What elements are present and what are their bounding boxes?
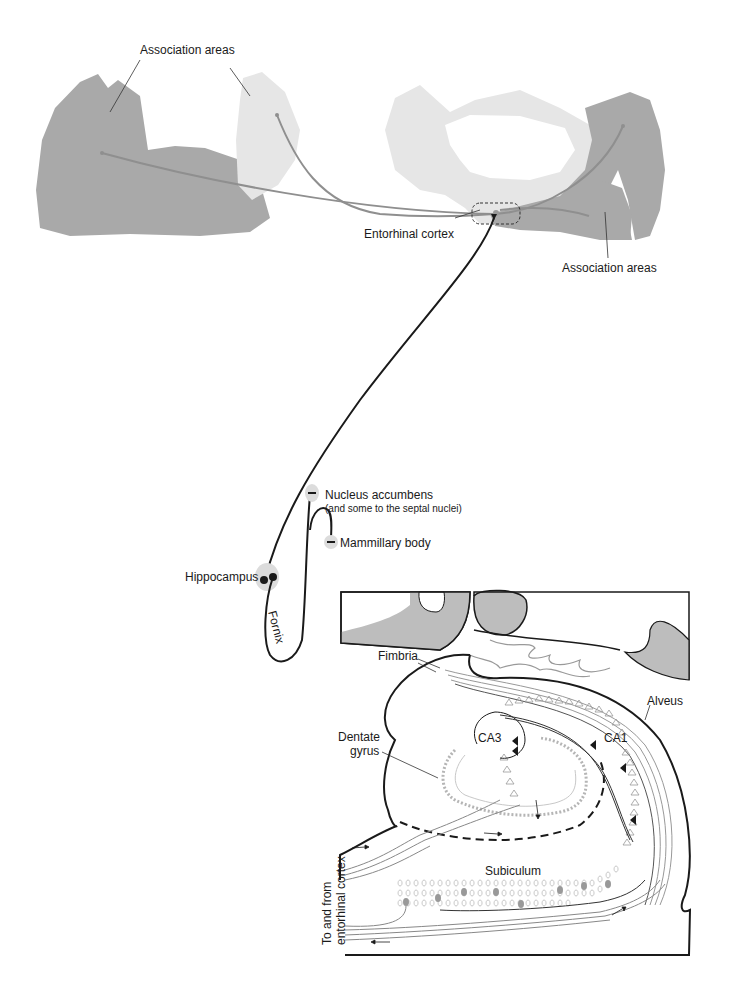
label-dentate-gyrus-line1: Dentate (338, 730, 380, 744)
label-association-areas-bottom: Association areas (562, 261, 657, 275)
label-subiculum: Subiculum (485, 864, 541, 878)
hippocampus-outer-boundary (340, 655, 470, 880)
ventricle-gray-right (625, 621, 689, 680)
label-fornix: Fornix (265, 609, 287, 645)
label-nucleus-accumbens: Nucleus accumbens (325, 488, 433, 502)
label-septal-nuclei-note: (and some to the septal nuclei) (325, 503, 462, 514)
hippocampal-fissure (400, 760, 604, 840)
hippocampal-pathway-diagram: Association areas Entorhinal cortex Asso… (0, 0, 729, 999)
alveus-fibers (445, 670, 672, 905)
label-ca3: CA3 (478, 731, 502, 745)
label-alveus: Alveus (647, 694, 683, 708)
label-ca1: CA1 (604, 731, 628, 745)
pyramidal-cell-layer (500, 695, 639, 845)
lateral-association-area (36, 74, 270, 236)
label-entorhinal-cortex-section: entorhinal cortex (334, 856, 348, 945)
medial-association-area (236, 72, 300, 200)
label-hippocampus: Hippocampus (185, 570, 258, 584)
label-to-and-from: To and from (320, 882, 334, 945)
brain-surface-panel: Association areas Entorhinal cortex Asso… (36, 43, 665, 275)
label-dentate-gyrus-line2: gyrus (350, 744, 379, 758)
caudate-blob (474, 590, 527, 635)
label-association-areas-top: Association areas (140, 43, 235, 57)
hippocampal-section: Fimbria Alveus Dentate gyrus CA3 CA1 Sub… (320, 590, 690, 955)
perforant-pathway (265, 218, 494, 580)
label-mammillary-body: Mammillary body (340, 536, 431, 550)
label-entorhinal-cortex: Entorhinal cortex (364, 227, 454, 241)
entorhinal-fibers (345, 800, 500, 870)
label-fimbria: Fimbria (378, 649, 418, 663)
